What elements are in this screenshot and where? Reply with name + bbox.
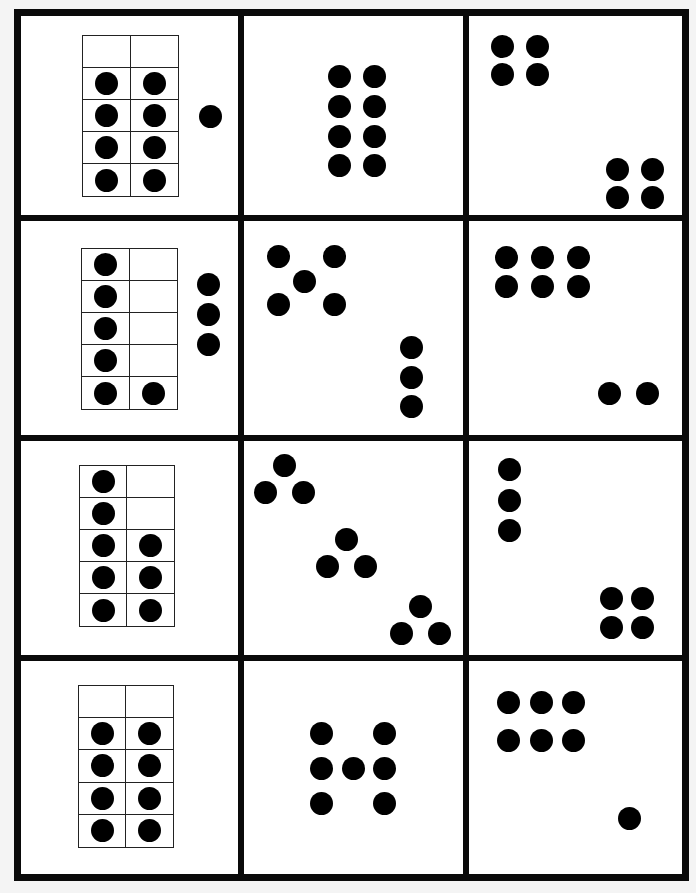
dot-icon (310, 757, 333, 780)
dot-icon (91, 722, 114, 745)
ten-frame-cell (79, 718, 126, 750)
dot-icon (631, 587, 654, 610)
dot-icon (92, 534, 115, 557)
dot-icon (491, 35, 514, 58)
outer-border-left (14, 9, 21, 881)
dot-icon (363, 95, 386, 118)
dot-icon (95, 72, 118, 95)
outer-border-bottom (14, 874, 689, 881)
ten-frame-cell (127, 498, 174, 530)
dot-icon (91, 754, 114, 777)
dot-icon (199, 105, 222, 128)
dot-icon (497, 691, 520, 714)
dot-icon (139, 534, 162, 557)
dot-icon (292, 481, 315, 504)
dot-icon (92, 502, 115, 525)
dot-icon (526, 63, 549, 86)
dot-icon (273, 454, 296, 477)
dot-icon (143, 104, 166, 127)
dot-icon (293, 270, 316, 293)
ten-frame-cell (126, 686, 173, 718)
dot-icon (139, 599, 162, 622)
ten-frame-cell (131, 36, 179, 68)
dot-icon (197, 303, 220, 326)
row-divider-3 (14, 655, 689, 661)
dot-icon (138, 754, 161, 777)
dot-icon (373, 757, 396, 780)
ten-frame-cell (127, 530, 174, 562)
dot-icon (197, 333, 220, 356)
dot-icon (95, 104, 118, 127)
dot-icon (400, 336, 423, 359)
dot-icon (498, 489, 521, 512)
dot-icon (530, 729, 553, 752)
ten-frame-cell (126, 815, 173, 847)
ten-frame (81, 248, 178, 410)
dot-icon (618, 807, 641, 830)
ten-frame-cell (82, 281, 130, 313)
dot-icon (363, 65, 386, 88)
ten-frame-cell (130, 249, 178, 281)
ten-frame-cell (82, 345, 130, 377)
dot-icon (138, 819, 161, 842)
dot-icon (94, 317, 117, 340)
ten-frame-cell (130, 377, 178, 409)
dot-icon (497, 729, 520, 752)
dot-icon (531, 275, 554, 298)
dot-icon (143, 169, 166, 192)
ten-frame-cell (130, 345, 178, 377)
dot-icon (267, 245, 290, 268)
dot-icon (363, 125, 386, 148)
dot-icon (328, 125, 351, 148)
dot-icon (428, 622, 451, 645)
dot-icon (530, 691, 553, 714)
dot-icon (323, 293, 346, 316)
ten-frame-cell (126, 783, 173, 815)
ten-frame-cell (83, 164, 131, 196)
dot-icon (600, 616, 623, 639)
dot-icon (335, 528, 358, 551)
dot-icon (310, 722, 333, 745)
ten-frame-cell (82, 249, 130, 281)
ten-frame-cell (79, 815, 126, 847)
ten-frame-cell (79, 783, 126, 815)
ten-frame-cell (83, 68, 131, 100)
ten-frame-cell (80, 466, 127, 498)
ten-frame-cell (80, 594, 127, 626)
dot-icon (197, 273, 220, 296)
dot-icon (498, 519, 521, 542)
ten-frame-cell (131, 164, 179, 196)
dot-icon (254, 481, 277, 504)
dot-icon (531, 246, 554, 269)
dot-icon (562, 729, 585, 752)
dot-icon (567, 275, 590, 298)
ten-frame-cell (127, 594, 174, 626)
dot-icon (328, 95, 351, 118)
ten-frame-cell (131, 132, 179, 164)
dot-icon (95, 136, 118, 159)
dot-icon (400, 395, 423, 418)
dot-icon (373, 722, 396, 745)
dot-icon (526, 35, 549, 58)
ten-frame-cell (80, 498, 127, 530)
column-divider-1 (238, 9, 244, 881)
dot-icon (94, 285, 117, 308)
dot-icon (143, 72, 166, 95)
worksheet (0, 0, 696, 893)
dot-icon (142, 382, 165, 405)
ten-frame-cell (79, 686, 126, 718)
ten-frame-cell (127, 466, 174, 498)
dot-icon (94, 253, 117, 276)
dot-icon (94, 382, 117, 405)
ten-frame (78, 685, 174, 848)
ten-frame-cell (126, 750, 173, 782)
ten-frame-cell (127, 562, 174, 594)
dot-icon (92, 470, 115, 493)
ten-frame-cell (83, 36, 131, 68)
dot-icon (143, 136, 166, 159)
ten-frame-cell (82, 313, 130, 345)
dot-icon (138, 722, 161, 745)
dot-icon (138, 787, 161, 810)
dot-icon (400, 366, 423, 389)
ten-frame-cell (130, 281, 178, 313)
